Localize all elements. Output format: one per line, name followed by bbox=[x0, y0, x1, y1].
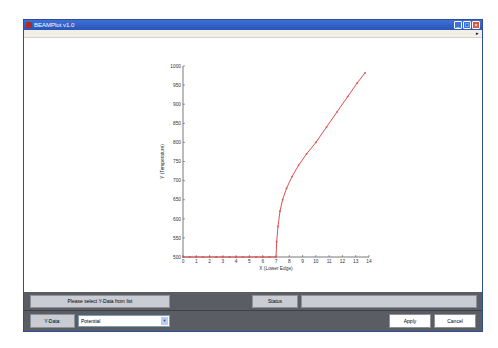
ydata-label: Y-Data: bbox=[30, 314, 75, 328]
data-point bbox=[336, 111, 338, 113]
x-tick-label: 13 bbox=[353, 259, 359, 264]
y-tick-label: 900 bbox=[173, 102, 181, 107]
x-axis-label: X (Lower Edge) bbox=[259, 266, 293, 271]
y-tick-label: 850 bbox=[173, 121, 181, 126]
status-value bbox=[301, 295, 477, 308]
x-tick-label: 10 bbox=[313, 259, 319, 264]
beamplot-window: BEAMPlot v1.0 _ □ × File Axes Curves Ret… bbox=[23, 19, 483, 332]
data-point bbox=[347, 96, 349, 98]
data-point bbox=[255, 256, 257, 258]
data-point bbox=[189, 256, 191, 258]
status-label: Status bbox=[252, 295, 298, 308]
data-point bbox=[286, 187, 288, 189]
close-button[interactable]: × bbox=[472, 21, 480, 29]
data-point bbox=[209, 256, 211, 258]
app-icon bbox=[26, 22, 32, 28]
data-point bbox=[276, 241, 278, 243]
y-tick-label: 800 bbox=[173, 140, 181, 145]
data-point bbox=[298, 164, 300, 166]
y-tick-label: 750 bbox=[173, 159, 181, 164]
x-tick-label: 1 bbox=[195, 259, 198, 264]
window-title: BEAMPlot v1.0 bbox=[34, 20, 74, 30]
y-tick-label: 950 bbox=[173, 83, 181, 88]
data-point bbox=[364, 72, 366, 74]
data-point bbox=[275, 256, 277, 258]
data-point bbox=[282, 199, 284, 201]
x-tick-label: 9 bbox=[301, 259, 304, 264]
ydata-selected-value: Potential bbox=[81, 316, 100, 326]
data-point bbox=[229, 256, 231, 258]
y-tick-label: 550 bbox=[173, 236, 181, 241]
y-axis-label: Y (Temperature) bbox=[160, 144, 165, 179]
apply-button[interactable]: Apply bbox=[389, 314, 431, 328]
y-tick-label: 600 bbox=[173, 217, 181, 222]
data-point bbox=[277, 226, 279, 228]
data-point bbox=[315, 142, 317, 144]
bottom-panel: Please select Y-Data from list Status Y-… bbox=[24, 292, 482, 331]
x-tick-label: 3 bbox=[222, 259, 225, 264]
chevron-down-icon[interactable]: ▼ bbox=[161, 317, 168, 325]
minimize-button[interactable]: _ bbox=[454, 21, 462, 29]
plot-area: 5005506006507007508008509009501000012345… bbox=[24, 38, 482, 290]
menu-overflow-icon[interactable]: ▸ bbox=[476, 30, 479, 37]
data-point bbox=[326, 126, 328, 128]
data-series-line bbox=[183, 73, 365, 257]
data-point bbox=[268, 256, 270, 258]
message-panel: Please select Y-Data from list bbox=[30, 295, 170, 308]
x-tick-label: 0 bbox=[182, 259, 185, 264]
data-point bbox=[215, 256, 217, 258]
x-tick-label: 2 bbox=[208, 259, 211, 264]
y-tick-label: 500 bbox=[173, 255, 181, 260]
x-tick-label: 8 bbox=[288, 259, 291, 264]
line-chart: 5005506006507007508008509009501000012345… bbox=[24, 38, 482, 290]
maximize-button[interactable]: □ bbox=[463, 21, 471, 29]
x-tick-label: 7 bbox=[275, 259, 278, 264]
x-tick-label: 12 bbox=[340, 259, 346, 264]
data-point bbox=[291, 176, 293, 178]
data-point bbox=[242, 256, 244, 258]
data-point bbox=[356, 82, 358, 84]
cancel-button[interactable]: Cancel bbox=[434, 314, 476, 328]
data-point bbox=[279, 210, 281, 212]
data-point bbox=[235, 256, 237, 258]
menu-bar: File Axes Curves Return to BEAM ▸ bbox=[24, 30, 482, 38]
title-bar[interactable]: BEAMPlot v1.0 _ □ × bbox=[24, 20, 482, 30]
x-tick-label: 14 bbox=[366, 259, 372, 264]
x-tick-label: 4 bbox=[235, 259, 238, 264]
ydata-select[interactable]: Potential ▼ bbox=[78, 315, 170, 327]
x-tick-label: 6 bbox=[261, 259, 264, 264]
y-tick-label: 650 bbox=[173, 197, 181, 202]
y-tick-label: 1000 bbox=[170, 64, 181, 69]
data-point bbox=[306, 153, 308, 155]
data-point bbox=[249, 256, 251, 258]
x-tick-label: 11 bbox=[327, 259, 332, 264]
data-point bbox=[195, 256, 197, 258]
data-point bbox=[262, 256, 264, 258]
data-point bbox=[202, 256, 204, 258]
y-tick-label: 700 bbox=[173, 178, 181, 183]
data-point bbox=[182, 256, 184, 258]
x-tick-label: 5 bbox=[248, 259, 251, 264]
data-point bbox=[222, 256, 224, 258]
